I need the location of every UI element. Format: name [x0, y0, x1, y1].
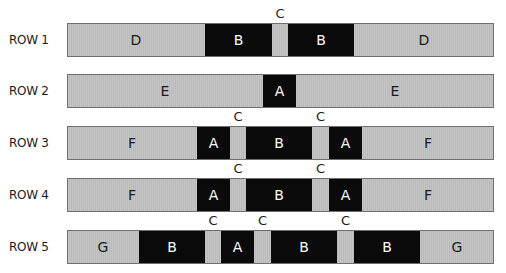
- gap-segment: [312, 179, 329, 211]
- dark-segment: B: [246, 179, 312, 211]
- dark-segment: A: [329, 127, 362, 159]
- dark-segment: B: [271, 231, 337, 263]
- row-label: ROW 5: [9, 230, 49, 264]
- gap-segment: [230, 127, 246, 159]
- light-segment: F: [67, 127, 197, 159]
- gap-segment: [312, 127, 329, 159]
- light-segment: G: [420, 231, 494, 263]
- gap-segment: [230, 179, 246, 211]
- gap-marker-label: C: [338, 213, 354, 228]
- dark-segment: A: [221, 231, 254, 263]
- dark-segment: B: [288, 24, 354, 56]
- light-segment: G: [67, 231, 139, 263]
- gap-segment: [272, 24, 288, 56]
- gap-marker-label: C: [230, 109, 246, 124]
- dark-segment: B: [139, 231, 205, 263]
- light-segment: F: [362, 127, 494, 159]
- light-segment: E: [296, 75, 494, 107]
- gap-segment: [337, 231, 354, 263]
- gap-marker-label: C: [313, 109, 329, 124]
- light-segment: D: [67, 24, 205, 56]
- gap-marker-label: C: [255, 213, 271, 228]
- row-bar: DBBD: [67, 23, 494, 57]
- row-bar: FABAF: [67, 178, 494, 212]
- row-label: ROW 2: [9, 74, 49, 108]
- gap-marker-label: C: [230, 161, 246, 176]
- gap-marker-label: C: [313, 161, 329, 176]
- row-bar: EAE: [67, 74, 494, 108]
- gap-marker-label: C: [272, 6, 288, 21]
- light-segment: D: [354, 24, 494, 56]
- row-label: ROW 4: [9, 178, 49, 212]
- light-segment: E: [67, 75, 263, 107]
- dark-segment: B: [246, 127, 312, 159]
- gap-marker-label: C: [205, 213, 221, 228]
- dark-segment: A: [263, 75, 296, 107]
- dark-segment: B: [354, 231, 420, 263]
- light-segment: F: [362, 179, 494, 211]
- row-bar: FABAF: [67, 126, 494, 160]
- row-label: ROW 3: [9, 126, 49, 160]
- dark-segment: A: [329, 179, 362, 211]
- row-bar: GBABBG: [67, 230, 494, 264]
- dark-segment: B: [205, 24, 272, 56]
- gap-segment: [205, 231, 221, 263]
- dark-segment: A: [197, 127, 230, 159]
- dark-segment: A: [197, 179, 230, 211]
- row-label: ROW 1: [9, 23, 49, 57]
- gap-segment: [254, 231, 271, 263]
- light-segment: F: [67, 179, 197, 211]
